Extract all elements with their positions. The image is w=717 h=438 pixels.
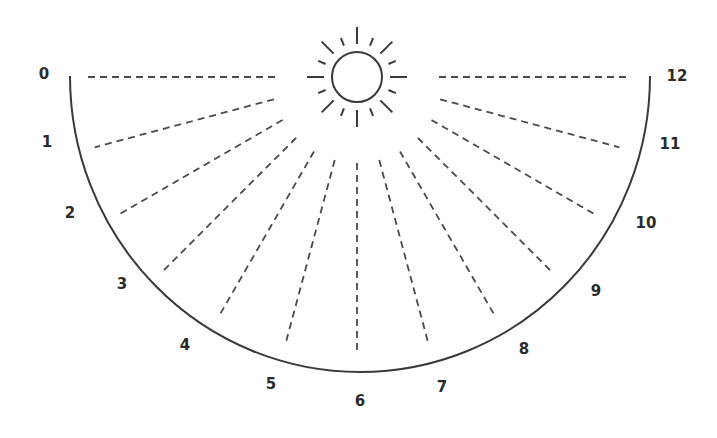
sun-beam <box>341 38 344 45</box>
hour-label-0: 0 <box>39 67 49 82</box>
sun-beam <box>322 100 334 112</box>
hour-ray-3 <box>163 138 296 271</box>
sun-disc <box>332 52 382 102</box>
sun-beam <box>322 42 334 54</box>
sundial-diagram: 0123456789101112 <box>0 0 717 438</box>
hour-label-6: 6 <box>355 394 365 409</box>
sundial-graphic <box>0 0 717 438</box>
sun-beam <box>341 108 344 115</box>
sun-icon <box>307 27 407 127</box>
sun-beams <box>307 27 407 127</box>
hour-ray-9 <box>418 138 551 271</box>
sun-beam <box>318 61 325 64</box>
hour-label-7: 7 <box>437 380 447 395</box>
sun-beam <box>370 108 373 115</box>
hour-label-11: 11 <box>660 137 681 152</box>
hour-label-1: 1 <box>42 135 52 150</box>
sun-beam <box>388 61 395 64</box>
hour-label-3: 3 <box>117 277 127 292</box>
hour-label-4: 4 <box>180 338 190 353</box>
sun-beam <box>380 42 392 54</box>
sun-beam <box>388 90 395 93</box>
hour-label-9: 9 <box>591 284 601 299</box>
hour-label-2: 2 <box>65 206 75 221</box>
sun-beam <box>370 38 373 45</box>
hour-label-12: 12 <box>667 69 688 84</box>
hour-label-8: 8 <box>519 342 529 357</box>
hour-label-5: 5 <box>266 377 276 392</box>
dial-arc <box>70 76 650 372</box>
sun-beam <box>318 90 325 93</box>
hour-label-10: 10 <box>636 216 657 231</box>
sun-beam <box>380 100 392 112</box>
